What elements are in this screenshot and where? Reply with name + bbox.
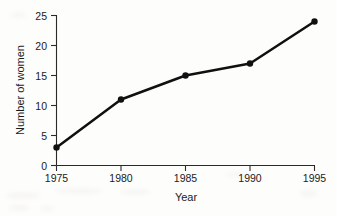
y-tick-label: 20 — [35, 40, 47, 52]
x-tick-label: 1975 — [45, 172, 69, 184]
data-point — [247, 60, 253, 66]
x-axis: 1975 1980 1985 1990 1995 Year — [45, 166, 327, 204]
x-tick-label: 1980 — [109, 172, 133, 184]
data-point — [53, 144, 59, 150]
y-axis: 0 5 10 15 20 25 Number of women — [14, 10, 57, 172]
x-tick-label: 1990 — [238, 172, 262, 184]
data-point — [182, 72, 188, 78]
y-axis-title: Number of women — [14, 45, 26, 135]
x-tick-label: 1985 — [174, 172, 198, 184]
y-tick-label: 0 — [41, 160, 47, 172]
y-tick-label: 25 — [35, 10, 47, 22]
chart-figure: 0 5 10 15 20 25 Number of women 1975 198… — [0, 0, 337, 216]
series-line — [57, 22, 315, 148]
x-tick-label: 1995 — [303, 172, 327, 184]
line-chart: 0 5 10 15 20 25 Number of women 1975 198… — [0, 0, 337, 216]
series-markers — [53, 18, 317, 150]
data-point — [311, 18, 317, 24]
data-point — [118, 96, 124, 102]
x-axis-title: Year — [175, 191, 198, 203]
data-series — [53, 18, 317, 150]
y-tick-label: 5 — [41, 130, 47, 142]
y-tick-label: 10 — [35, 100, 47, 112]
y-tick-label: 15 — [35, 70, 47, 82]
